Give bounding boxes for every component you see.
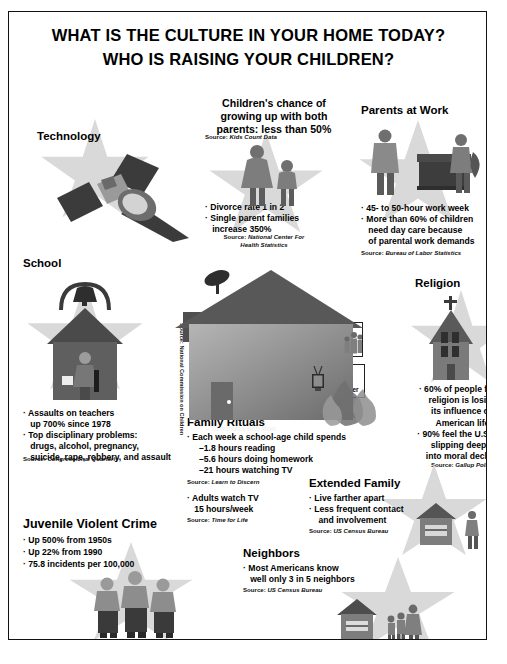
bullet-item: · Up 22% from 1990 bbox=[23, 547, 134, 559]
bullet-item: –1.8 hours reading bbox=[187, 443, 346, 454]
source-label: Source: bbox=[224, 233, 247, 240]
bullet-item: · Live farther apart bbox=[309, 493, 404, 504]
bullet-item: of parental work demands bbox=[361, 236, 475, 247]
source-label: Source: bbox=[205, 133, 228, 140]
source-value: National Center For bbox=[248, 233, 305, 240]
bullet-item: · Each week a school-age child spends bbox=[187, 432, 346, 443]
bullets-religion: · 60% of people feel religion is losing … bbox=[405, 384, 487, 462]
mother-and-child-figure bbox=[229, 144, 319, 206]
section-heading-religion: Religion bbox=[415, 277, 460, 289]
bullets-family-rituals-adults: · Adults watch TV 15 hours/week bbox=[187, 493, 259, 515]
bullet-item: · Adults watch TV bbox=[187, 493, 259, 504]
source-value: Gallup Poll bbox=[455, 461, 487, 468]
satellite-icon bbox=[39, 142, 189, 242]
bullet-item: and involvement bbox=[309, 515, 404, 526]
source-value: US Census Bureau bbox=[267, 586, 322, 593]
section-heading-extended-family: Extended Family bbox=[309, 477, 400, 489]
source-parents-at-work: Source: Bureau of Labor Statistics bbox=[361, 249, 461, 257]
church-figure bbox=[419, 294, 485, 382]
flame-graphic bbox=[309, 364, 381, 426]
page-title-line2: WHO IS RAISING YOUR CHILDREN? bbox=[9, 50, 487, 69]
bullet-item: 15 hours/week bbox=[187, 504, 259, 515]
page-title-line1: WHAT IS THE CULTURE IN YOUR HOME TODAY? bbox=[9, 26, 487, 45]
section-heading-juvenile-crime: Juvenile Violent Crime bbox=[23, 517, 157, 531]
bullet-item: · More than 60% of children bbox=[361, 214, 475, 225]
source-value: US Census Bureau bbox=[333, 527, 388, 534]
source-both-parents: Source: National Center For Health Stati… bbox=[199, 233, 329, 248]
source-label: Source: bbox=[243, 586, 266, 593]
family-at-computer-figure bbox=[342, 330, 362, 354]
source-value: Time for Life bbox=[211, 516, 247, 523]
section-heading-technology: Technology bbox=[37, 130, 101, 142]
source-label: Source: bbox=[309, 527, 332, 534]
both-parents-heading-l2: growing up with both bbox=[199, 110, 349, 123]
bullet-item: · 75.8 incidents per 100,000 bbox=[23, 559, 134, 571]
bullet-item: well only 3 in 5 neighbors bbox=[243, 574, 355, 585]
source-label: Source: bbox=[361, 249, 384, 256]
bullet-item: its influence on bbox=[405, 406, 487, 417]
section-heading-both-parents: Children's chance of growing up with bot… bbox=[199, 97, 349, 136]
section-heading-neighbors: Neighbors bbox=[243, 547, 300, 559]
bullets-both-parents: · Divorce rate 1 in 2 · Single parent fa… bbox=[205, 202, 299, 235]
bullet-item: · Up 500% from 1950s bbox=[23, 535, 134, 547]
bullets-parents-at-work: · 45- to 50-hour work week · More than 6… bbox=[361, 203, 475, 247]
bullet-item: · 45- to 50-hour work week bbox=[361, 203, 475, 214]
source-family-rituals: Source: Learn to Discern bbox=[187, 478, 260, 486]
source-value-2: Health Statistics bbox=[199, 241, 329, 249]
section-heading-school: School bbox=[23, 257, 61, 269]
bullets-neighbors: · Most Americans know well only 3 in 5 n… bbox=[243, 563, 355, 585]
source-both-parents-top: Source: Kids Count Data bbox=[205, 133, 277, 141]
poster-canvas: WHAT IS THE CULTURE IN YOUR HOME TODAY? … bbox=[8, 11, 487, 640]
bullet-item: religion is losing bbox=[405, 395, 487, 406]
bullet-item: · 60% of people feel bbox=[405, 384, 487, 395]
bullet-item: drugs, alcohol, pregnancy, bbox=[23, 441, 171, 452]
source-value: Congressional Quarterly bbox=[47, 455, 118, 462]
bullets-extended-family: · Live farther apart · Less frequent con… bbox=[309, 493, 404, 526]
source-extended-family: Source: US Census Bureau bbox=[309, 527, 388, 535]
source-value: Learn to Discern bbox=[211, 478, 259, 485]
section-heading-parents-at-work: Parents at Work bbox=[361, 104, 448, 116]
house-and-person-figure bbox=[414, 499, 486, 551]
bullet-item: –21 hours watching TV bbox=[187, 465, 346, 476]
source-neighbors: Source: US Census Bureau bbox=[243, 586, 322, 594]
source-label: Source: bbox=[187, 478, 210, 485]
neighborhood-family-figure bbox=[335, 597, 425, 640]
bullet-item: · Assaults on teachers bbox=[23, 408, 171, 419]
bullets-family-rituals: · Each week a school-age child spends –1… bbox=[187, 432, 346, 476]
bullet-item: need day care because bbox=[361, 225, 475, 236]
source-religion: Source: Gallup Poll bbox=[405, 461, 487, 469]
source-value: Kids Count Data bbox=[229, 133, 276, 140]
source-value: Bureau of Labor Statistics bbox=[385, 249, 461, 256]
both-parents-heading-l1: Children's chance of bbox=[199, 97, 349, 110]
bullets-juvenile-crime: · Up 500% from 1950s · Up 22% from 1990 … bbox=[23, 535, 134, 571]
schoolhouse-bell-figure bbox=[31, 274, 141, 404]
bullet-item: –5.6 hours doing homework bbox=[187, 454, 346, 465]
bullet-item: · Most Americans know bbox=[243, 563, 355, 574]
bullet-item: · 90% feel the U.S. is bbox=[405, 429, 487, 440]
office-workers-figure bbox=[361, 124, 486, 202]
bullet-item: slipping deeper bbox=[405, 440, 487, 451]
bullet-item: · Less frequent contact bbox=[309, 504, 404, 515]
source-label: Source: bbox=[187, 516, 210, 523]
bullet-item: · Top disciplinary problems: bbox=[23, 430, 171, 441]
source-label: Source: bbox=[23, 455, 46, 462]
bullet-item: up 700% since 1978 bbox=[23, 419, 171, 430]
bullet-item: American life bbox=[405, 418, 487, 429]
bullet-item: · Single parent families bbox=[205, 213, 299, 224]
source-school: Source: Congressional Quarterly bbox=[23, 455, 119, 463]
three-youths-figure bbox=[89, 570, 181, 638]
source-family-rituals-2: Source: Time for Life bbox=[187, 516, 248, 524]
